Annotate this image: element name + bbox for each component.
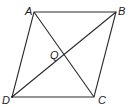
parallelogram-diagram: A B C D Q [0, 0, 130, 107]
label-B: B [118, 5, 125, 17]
point-D-dot [11, 96, 13, 98]
label-D: D [2, 94, 10, 106]
label-A: A [24, 5, 32, 17]
label-C: C [98, 94, 106, 106]
diagonal-BD [12, 12, 116, 97]
label-Q: Q [50, 49, 59, 61]
